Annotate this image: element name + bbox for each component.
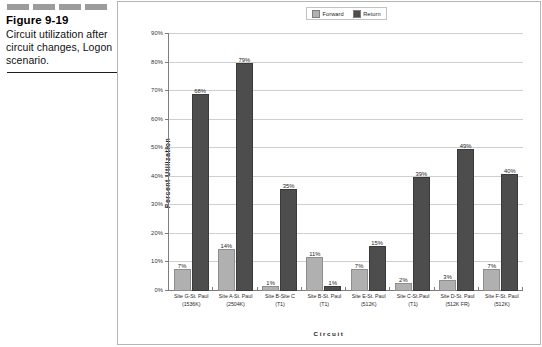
y-axis-tick-label: 90%: [151, 30, 163, 36]
x-label-line-2: (2504K): [213, 301, 257, 309]
bar-value-label: 1%: [266, 280, 275, 286]
x-axis-title: Circuit: [118, 330, 540, 337]
y-axis-tick-label: 50%: [151, 144, 163, 150]
bar-value-label: 14%: [220, 243, 232, 249]
bar-group: 7%15%: [346, 33, 390, 291]
caption-underline: [7, 72, 120, 73]
x-axis-tick-label: Site C-St.Paul(T1): [391, 293, 435, 308]
x-label-line-1: Site A-St. Paul: [219, 293, 252, 299]
y-axis-tick-label: 60%: [151, 116, 163, 122]
x-label-line-2: (512K): [347, 301, 391, 309]
x-axis-tick-label: Site E-St. Paul(512K): [347, 293, 391, 308]
bar-value-label: 79%: [238, 57, 250, 63]
x-label-line-2: (T1): [302, 301, 346, 309]
dash-segment: [85, 4, 107, 10]
x-label-line-2: (512K FR): [435, 301, 479, 309]
dash-segment: [33, 4, 55, 10]
x-axis-tick-label: Site F-St. Paul(512K): [480, 293, 524, 308]
x-label-line-2: (T1): [258, 301, 302, 309]
x-label-line-1: Site G-St. Paul: [174, 293, 208, 299]
bar-value-label: 49%: [460, 143, 472, 149]
x-axis-tick-labels: Site G-St. Paul(1536K)Site A-St. Paul(25…: [169, 293, 524, 308]
dash-segment: [7, 4, 29, 10]
figure-description: Circuit utilization after circuit change…: [6, 28, 126, 68]
y-axis-tick-label: 70%: [151, 87, 163, 93]
bar-group: 7%68%: [169, 33, 213, 291]
bar-value-label: 39%: [415, 171, 427, 177]
bar-group: 11%1%: [302, 33, 346, 291]
x-label-line-1: Site E-St. Paul: [352, 293, 386, 299]
bar-return[interactable]: 79%: [236, 63, 253, 291]
legend-label: Forward: [323, 11, 344, 17]
bar-forward[interactable]: 11%: [306, 257, 323, 291]
y-axis-tick-label: 80%: [151, 59, 163, 65]
dash-segment: [59, 4, 81, 10]
y-axis-tick-label: 10%: [151, 258, 163, 264]
bar-forward[interactable]: 1%: [262, 286, 279, 291]
bar-value-label: 35%: [283, 183, 295, 189]
bar-group: 1%35%: [258, 33, 302, 291]
bar-forward[interactable]: 7%: [351, 269, 368, 291]
bar-return[interactable]: 1%: [324, 286, 341, 291]
bar-group: 14%79%: [213, 33, 257, 291]
bar-return[interactable]: 68%: [192, 94, 209, 291]
y-axis-tick-label: 30%: [151, 201, 163, 207]
bar-forward[interactable]: 14%: [218, 249, 235, 291]
bar-group: 3%49%: [435, 33, 479, 291]
x-label-line-1: Site B-St. Paul: [307, 293, 341, 299]
bar-value-label: 7%: [178, 263, 187, 269]
x-label-line-1: Site B-Site C: [265, 293, 295, 299]
bar-forward[interactable]: 7%: [483, 269, 500, 291]
bar-forward[interactable]: 2%: [395, 283, 412, 291]
bar-value-label: 1%: [329, 280, 338, 286]
x-label-line-1: Site D-St. Paul: [440, 293, 474, 299]
legend-swatch-icon: [353, 10, 361, 18]
x-label-line-2: (1536K): [169, 301, 213, 309]
bar-return[interactable]: 35%: [280, 189, 297, 291]
bar-value-label: 7%: [355, 263, 364, 269]
bar-return[interactable]: 49%: [457, 149, 474, 291]
x-axis-tick-label: Site A-St. Paul(2504K): [213, 293, 257, 308]
x-axis-tick-label: Site B-Site C(T1): [258, 293, 302, 308]
figure-caption: Figure 9-19 Circuit utilization after ci…: [6, 4, 126, 68]
bar-value-label: 2%: [399, 277, 408, 283]
x-label-line-1: Site C-St.Paul: [397, 293, 430, 299]
bar-group: 2%39%: [390, 33, 434, 291]
chart-container: ForwardReturn Percent Utilization Circui…: [117, 1, 541, 345]
legend-item: Return: [353, 10, 381, 18]
bar-value-label: 7%: [488, 263, 497, 269]
bar-value-label: 11%: [309, 251, 320, 257]
figure-page: Figure 9-19 Circuit utilization after ci…: [0, 0, 542, 347]
y-axis-tick-label: 40%: [151, 173, 163, 179]
x-label-line-2: (512K): [480, 301, 524, 309]
figure-number: Figure 9-19: [6, 14, 126, 27]
bar-value-label: 40%: [504, 168, 516, 174]
x-axis-tick: [522, 287, 523, 291]
y-axis-tick-label: 20%: [151, 230, 163, 236]
legend-item: Forward: [312, 10, 344, 18]
bar-return[interactable]: 40%: [501, 174, 518, 291]
x-axis-tick-label: Site G-St. Paul(1536K): [169, 293, 213, 308]
bar-forward[interactable]: 7%: [174, 269, 191, 291]
legend-label: Return: [363, 11, 380, 17]
x-axis-tick-label: Site B-St. Paul(T1): [302, 293, 346, 308]
bar-value-label: 15%: [371, 240, 383, 246]
bar-return[interactable]: 39%: [413, 177, 430, 291]
bar-value-label: 3%: [443, 274, 452, 280]
bar-value-label: 68%: [194, 88, 206, 94]
x-label-line-1: Site F-St. Paul: [485, 293, 518, 299]
bar-return[interactable]: 15%: [369, 246, 386, 291]
x-label-line-2: (T1): [391, 301, 435, 309]
legend-swatch-icon: [312, 10, 320, 18]
plot-area: 90%80%70%60%50%40%30%20%10%0% 7%68%14%79…: [168, 33, 523, 291]
bar-forward[interactable]: 3%: [439, 280, 456, 291]
bar-groups: 7%68%14%79%1%35%11%1%7%15%2%39%3%49%7%40…: [169, 33, 523, 291]
caption-dash-rule: [7, 4, 126, 10]
bar-group: 7%40%: [479, 33, 523, 291]
chart-legend: ForwardReturn: [306, 7, 387, 20]
x-axis-tick-label: Site D-St. Paul(512K FR): [435, 293, 479, 308]
y-axis-tick-label: 0%: [154, 287, 163, 293]
